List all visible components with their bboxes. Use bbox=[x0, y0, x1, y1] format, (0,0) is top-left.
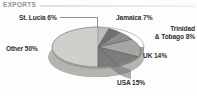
slice-label-trinidad-tobago: Trinidad & Tobago 8% bbox=[135, 25, 195, 40]
exports-pie-chart-figure: EXPORTS bbox=[0, 0, 197, 96]
slice-label-usa: USA 15% bbox=[117, 79, 145, 87]
slice-label-uk: UK 14% bbox=[143, 52, 167, 60]
pie-slices bbox=[52, 27, 144, 67]
slice-label-st-lucia: St. Lucia 6% bbox=[19, 14, 57, 22]
slice-label-trinidad-line2: & Tobago 8% bbox=[155, 33, 195, 40]
st-lucia-leader-line bbox=[60, 17, 98, 18]
st-lucia-leader-drop bbox=[97, 17, 98, 28]
slice-label-trinidad-line1: Trinidad bbox=[170, 25, 195, 32]
slice-label-jamaica: Jamaica 7% bbox=[116, 14, 152, 22]
slice-label-other: Other 50% bbox=[6, 45, 38, 53]
